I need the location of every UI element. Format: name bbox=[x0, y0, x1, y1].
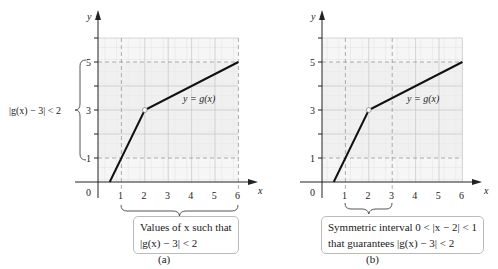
x-tick-a-2: 2 bbox=[142, 190, 147, 201]
panel-b bbox=[300, 10, 482, 214]
caption-a-line2: |g(x) − 3| < 2 bbox=[140, 235, 232, 251]
x-tick-a-3: 3 bbox=[165, 190, 170, 201]
x-tick-a-1: 1 bbox=[118, 190, 123, 201]
panel-label-b: (b) bbox=[366, 253, 379, 265]
caption-b-line1: Symmetric interval 0 < |x − 2| < 1 bbox=[328, 219, 477, 235]
caption-box-a: Values of x such that |g(x) − 3| < 2 bbox=[133, 216, 239, 254]
panel-label-a: (a) bbox=[158, 253, 170, 265]
y-tick-a-3: 3 bbox=[86, 105, 91, 116]
x-tick-b-4: 4 bbox=[412, 190, 417, 201]
x-tick-b-3: 3 bbox=[389, 190, 394, 201]
x-tick-a-6: 6 bbox=[235, 190, 240, 201]
caption-b-line2: that guarantees |g(x) − 3| < 2 bbox=[328, 235, 477, 251]
x-tick-a-5: 5 bbox=[212, 190, 217, 201]
y-tick-b-1: 1 bbox=[310, 153, 315, 164]
x-tick-b-1: 1 bbox=[342, 190, 347, 201]
curve-label-a: y = g(x) bbox=[182, 93, 216, 105]
y-axis-label-a: y bbox=[86, 11, 92, 22]
y-brace-label-a: |g(x) − 3| < 2 bbox=[9, 105, 61, 117]
caption-box-b: Symmetric interval 0 < |x − 2| < 1 that … bbox=[321, 216, 484, 254]
y-tick-a-5: 5 bbox=[86, 57, 91, 68]
x-tick-b-5: 5 bbox=[436, 190, 441, 201]
x-tick-a-4: 4 bbox=[188, 190, 193, 201]
y-tick-a-1: 1 bbox=[86, 153, 91, 164]
x-tick-b-6: 6 bbox=[459, 190, 464, 201]
x-axis-label-b: x bbox=[483, 185, 489, 196]
origin-label-a: 0 bbox=[86, 187, 91, 198]
origin-label-b: 0 bbox=[310, 187, 315, 198]
y-tick-b-5: 5 bbox=[310, 57, 315, 68]
x-axis-label-a: x bbox=[257, 185, 263, 196]
x-tick-b-2: 2 bbox=[366, 190, 371, 201]
y-tick-b-3: 3 bbox=[310, 105, 315, 116]
curve-label-b: y = g(x) bbox=[406, 93, 440, 105]
caption-a-line1: Values of x such that bbox=[140, 219, 232, 235]
y-axis-label-b: y bbox=[310, 11, 316, 22]
